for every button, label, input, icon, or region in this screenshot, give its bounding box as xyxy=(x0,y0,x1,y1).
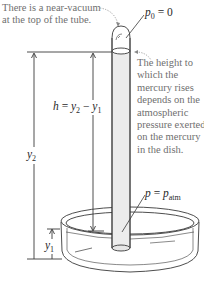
height-callout-line-5: atmospheric xyxy=(137,107,204,119)
y2-sub: 2 xyxy=(32,154,36,163)
height-callout-line-1: The height to xyxy=(137,57,204,69)
height-callout-line-2: which the xyxy=(137,69,204,81)
p-eq: = xyxy=(151,187,163,199)
vacuum-callout: There is a near-vacuum at the top of the… xyxy=(2,2,101,27)
vacuum-callout-line-2: at the top of the tube. xyxy=(2,14,101,26)
y1-label: y1 xyxy=(45,239,54,254)
p0-label: p0 = 0 xyxy=(145,6,173,21)
height-callout-line-6: pressure exerted xyxy=(137,119,204,131)
height-callout-line-3: mercury rises xyxy=(137,82,204,94)
p-atm-label: p = patm xyxy=(145,187,181,202)
h-eq: = xyxy=(59,100,71,112)
h-label: h = y2 − y1 xyxy=(53,100,101,115)
height-callout-line-8: in the dish. xyxy=(137,144,204,156)
vacuum-callout-line-1: There is a near-vacuum xyxy=(2,2,101,14)
height-callout-line-4: depends on the xyxy=(137,94,204,106)
height-callout: The height to which the mercury rises de… xyxy=(137,57,204,156)
p0-rest: = 0 xyxy=(155,6,173,18)
h-minus: − xyxy=(80,100,92,112)
h-y1-sub: 1 xyxy=(97,106,101,115)
y1-sub: 1 xyxy=(50,245,54,254)
glass-tube xyxy=(112,26,130,251)
patm-sub: atm xyxy=(169,193,181,202)
height-callout-line-7: on the mercury xyxy=(137,131,204,143)
y2-label: y2 xyxy=(27,147,36,164)
